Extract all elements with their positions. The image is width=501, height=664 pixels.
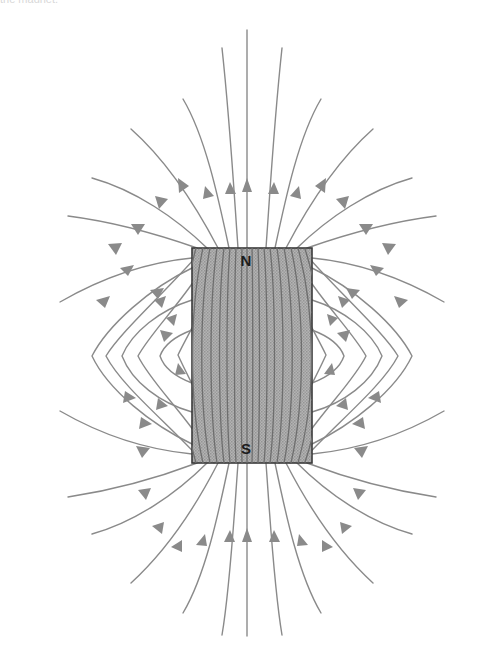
arrowhead-r-loop-2 xyxy=(337,330,350,342)
arrowhead-r-loop-3 xyxy=(324,363,335,375)
field-line-left-up-1 xyxy=(60,258,192,302)
arrowhead-ll-4 xyxy=(171,540,182,552)
field-line-left-up-3 xyxy=(92,178,207,248)
arrowhead-ul-5 xyxy=(203,186,214,199)
arrowhead-r-loop-1 xyxy=(346,288,360,299)
arrowhead-lr-3 xyxy=(340,522,352,534)
field-line-right-up-2 xyxy=(307,216,436,248)
field-line-left-up-6 xyxy=(222,48,238,248)
north-pole-label: N xyxy=(236,253,256,268)
arrowhead-ulo-2 xyxy=(160,330,173,342)
field-line-right-up-3 xyxy=(297,178,412,248)
south-pole-label: S xyxy=(236,441,256,456)
field-line-right-3 xyxy=(301,249,398,462)
arrowhead-ll-1 xyxy=(136,446,150,458)
interior-line-l1 xyxy=(241,248,242,463)
field-line-right-down-1 xyxy=(312,411,444,454)
arrowhead-lr-5 xyxy=(297,534,308,546)
field-line-right-5 xyxy=(312,300,382,412)
field-line-left-down-1 xyxy=(60,411,192,454)
magnetic-field-diagram xyxy=(0,0,501,664)
field-line-left-down-6 xyxy=(222,463,238,635)
arrowhead-lr-1 xyxy=(354,446,368,458)
field-line-right-down-3 xyxy=(297,463,412,534)
field-line-right-up-1 xyxy=(312,258,444,302)
arrowhead-ul-long-2 xyxy=(108,243,122,255)
interior-line-r1 xyxy=(252,248,253,463)
arrowhead-ul-long-1 xyxy=(96,296,110,308)
arrowhead-ur-5 xyxy=(290,186,301,199)
arrowhead-ur-2 xyxy=(359,224,373,235)
field-line-right-4 xyxy=(312,268,412,444)
arrowhead-ll-3 xyxy=(152,522,164,534)
arrowhead-ll-5 xyxy=(196,534,207,546)
arrowhead-axis-bottom xyxy=(242,528,252,542)
field-line-left-5 xyxy=(122,300,192,412)
arrowhead-ll-2 xyxy=(138,488,151,500)
field-line-left-4 xyxy=(92,268,192,444)
arrowhead-r-mid-1 xyxy=(338,296,350,308)
interior-line-r12 xyxy=(312,312,320,400)
field-line-right-up-6 xyxy=(266,48,282,248)
arrowhead-ur-long-1 xyxy=(394,296,408,308)
arrowhead-ul-2 xyxy=(131,224,145,235)
field-line-left-down-2 xyxy=(68,463,197,497)
arrowhead-axis-top xyxy=(242,178,252,192)
interior-line-l9 xyxy=(173,249,190,462)
field-line-right-down-2 xyxy=(307,463,436,497)
field-line-left-3 xyxy=(106,249,203,462)
arrowhead-lr-2 xyxy=(353,488,366,500)
arrowhead-ur-long-2 xyxy=(382,243,396,255)
arrowhead-ur-3 xyxy=(336,196,349,209)
arrowhead-ul-3 xyxy=(155,196,168,209)
field-line-left-up-2 xyxy=(68,216,197,248)
arrowhead-l-mid-1 xyxy=(154,296,166,308)
field-line-left-down-3 xyxy=(92,463,207,534)
interior-line-l12 xyxy=(185,312,193,400)
arrowhead-lr-4 xyxy=(322,540,333,552)
figure-root: the magnet. xyxy=(0,0,501,664)
field-line-right-down-6 xyxy=(266,463,282,635)
